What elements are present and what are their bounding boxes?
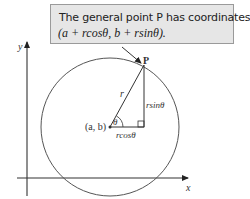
- callout-pointer: [122, 47, 141, 63]
- right-angle-mark: [138, 121, 144, 127]
- angle-arc: [117, 116, 124, 127]
- point-p-label: P: [143, 55, 149, 66]
- angle-label: θ: [113, 117, 118, 127]
- horizontal-leg-label: rcosθ: [116, 130, 136, 140]
- y-axis-label: y: [17, 41, 23, 52]
- x-axis-label: x: [185, 182, 191, 193]
- center-label: (a, b): [85, 121, 106, 133]
- circle-diagram: y x P r (a, b) θ rsinθ rcosθ: [0, 0, 250, 199]
- vertical-leg-label: rsinθ: [146, 100, 165, 110]
- center-point: [109, 126, 112, 129]
- radius-label: r: [120, 88, 124, 99]
